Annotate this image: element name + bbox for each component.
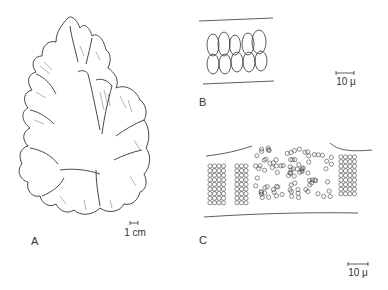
panel-c-drawing xyxy=(204,143,372,217)
panel-c-scale-bar xyxy=(348,262,368,266)
panel-b-scale-text: 10 μ xyxy=(331,76,361,87)
panel-c-scale-text: 10 μ xyxy=(343,267,373,278)
panel-a-scale-bar xyxy=(130,221,138,225)
panel-b-label: B xyxy=(199,96,206,108)
panel-b-drawing xyxy=(199,18,274,84)
panel-c-cells xyxy=(208,146,357,205)
panel-b-scale-bar xyxy=(336,71,354,75)
panel-a-drawing xyxy=(19,17,150,214)
panel-a-shading xyxy=(34,46,140,210)
panel-a-scale-text: 1 cm xyxy=(120,227,150,238)
illustration-drawings xyxy=(0,0,388,290)
panel-a-label: A xyxy=(31,235,38,247)
panel-c-label: C xyxy=(199,234,207,246)
